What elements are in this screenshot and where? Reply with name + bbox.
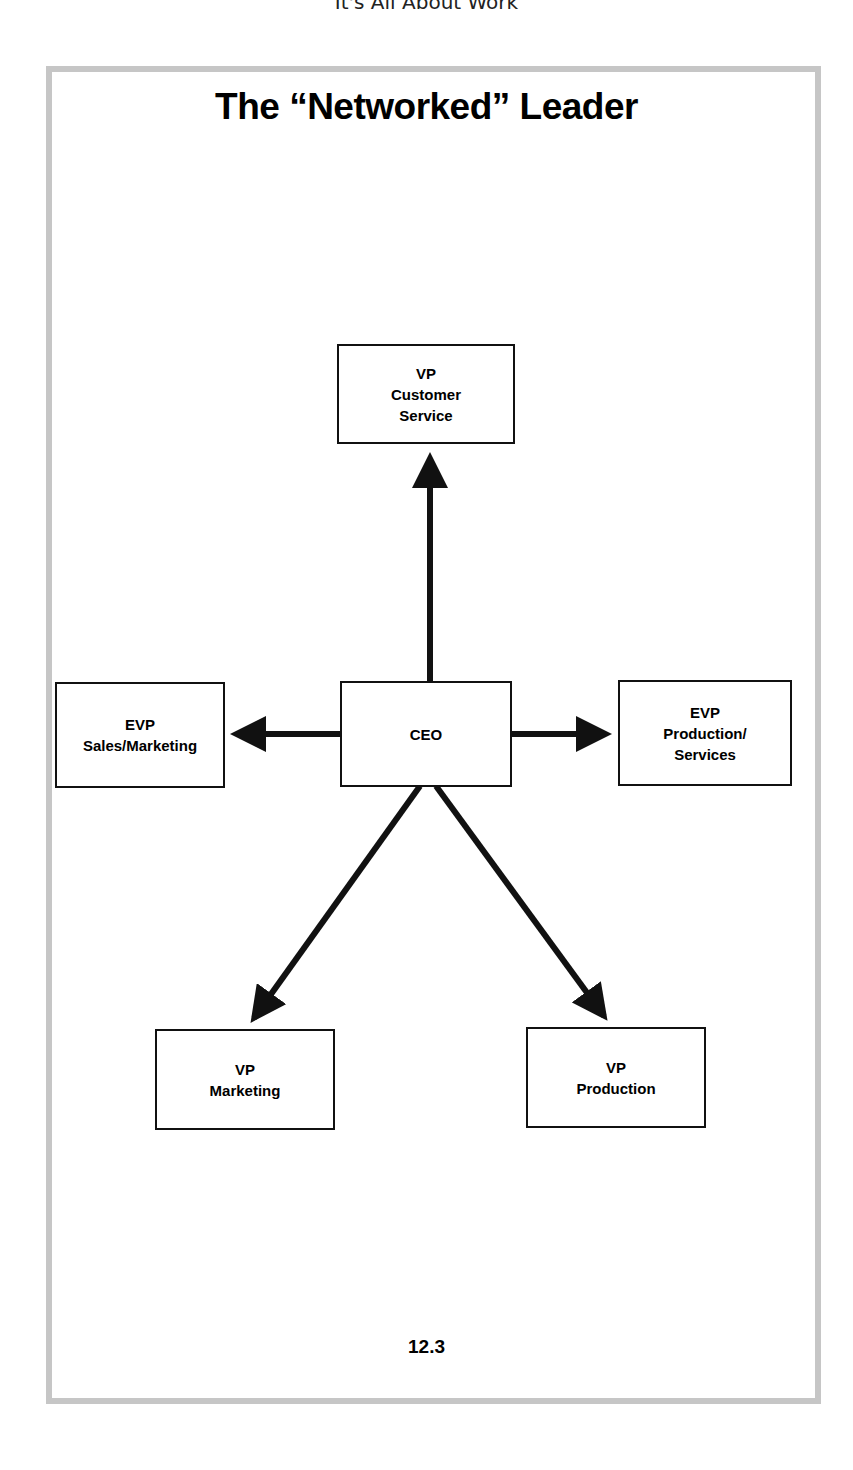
node-vp-customer-service: VP Customer Service [337,344,515,444]
node-vp-production: VP Production [526,1027,706,1128]
figure-number: 12.3 [0,1336,853,1358]
node-line: VP [606,1057,626,1078]
node-line: VP [416,363,436,384]
node-evp-sales-marketing: EVP Sales/Marketing [55,682,225,788]
node-evp-production-services: EVP Production/ Services [618,680,792,786]
node-line: CEO [410,724,443,745]
node-ceo: CEO [340,681,512,787]
node-line: EVP [125,714,155,735]
node-line: Production [576,1078,655,1099]
arrow-to-vp-production [436,786,604,1016]
node-line: Customer [391,384,461,405]
node-line: VP [235,1059,255,1080]
node-line: Services [674,744,736,765]
node-vp-marketing: VP Marketing [155,1029,335,1130]
node-line: Production/ [663,723,746,744]
node-line: Service [399,405,452,426]
node-line: Sales/Marketing [83,735,197,756]
arrow-to-vp-marketing [254,786,420,1018]
node-line: EVP [690,702,720,723]
node-line: Marketing [210,1080,281,1101]
